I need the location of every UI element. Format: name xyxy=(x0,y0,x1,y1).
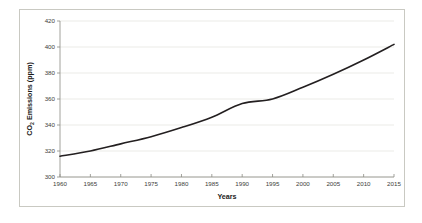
co2-emissions-series xyxy=(60,44,394,156)
y-tick-label: 380 xyxy=(45,69,56,76)
x-tick-label: 1980 xyxy=(175,180,189,187)
y-tick-label: 320 xyxy=(45,147,56,154)
y-axis-title-suffix: Emissions (ppm) xyxy=(25,62,34,123)
y-tick-label: 340 xyxy=(45,121,56,128)
x-tick-label: 2000 xyxy=(296,180,310,187)
x-tick-labels: 1960196519701975198019851990199520002005… xyxy=(53,180,401,187)
y-tick-label: 360 xyxy=(45,95,56,102)
x-tick-label: 1985 xyxy=(205,180,219,187)
y-axis-title: CO2 Emissions (ppm) xyxy=(25,62,35,136)
x-tick-label: 1965 xyxy=(83,180,97,187)
y-tick-labels: 300320340360380400420 xyxy=(45,17,56,180)
x-tick-label: 1990 xyxy=(235,180,249,187)
chart-figure: 300320340360380400420 196019651970197519… xyxy=(19,9,405,207)
x-tick-label: 1995 xyxy=(266,180,280,187)
x-tick-marks xyxy=(60,174,394,177)
x-axis-title: Years xyxy=(217,192,236,201)
y-tick-marks xyxy=(57,21,60,177)
y-tick-label: 400 xyxy=(45,43,56,50)
x-tick-label: 2010 xyxy=(357,180,371,187)
svg-text:CO2 Emissions (ppm): CO2 Emissions (ppm) xyxy=(25,62,35,136)
y-tick-label: 420 xyxy=(45,17,56,24)
gridlines xyxy=(60,21,394,177)
y-axis-title-prefix: CO xyxy=(25,125,34,136)
x-tick-label: 1975 xyxy=(144,180,158,187)
x-tick-label: 1960 xyxy=(53,180,67,187)
line-chart: 300320340360380400420 196019651970197519… xyxy=(20,10,406,208)
x-tick-label: 1970 xyxy=(114,180,128,187)
x-tick-label: 2015 xyxy=(387,180,401,187)
x-tick-label: 2005 xyxy=(326,180,340,187)
